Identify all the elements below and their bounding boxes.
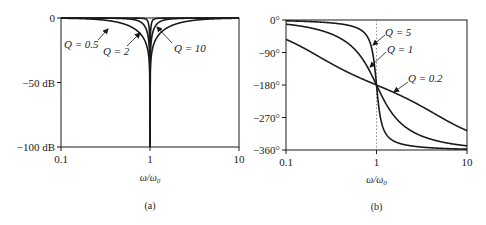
- ytick-label-b-180: −180°: [253, 79, 280, 91]
- chart-b-phase: 0° −90° −180° −270° −360° 0.1 1 10 ω/ω0 …: [253, 14, 473, 213]
- annotation-arrow-q-0.2: [394, 82, 408, 92]
- ytick-label-b-0: 0°: [270, 14, 280, 26]
- ytick-label-a-100: −100 dB: [17, 141, 55, 153]
- annotation-q-5: Q = 5: [385, 26, 412, 38]
- annotation-q-10: Q = 10: [174, 42, 206, 54]
- ytick-label-a-0: 0: [50, 12, 56, 24]
- xlabel-b: ω/ω0: [366, 174, 387, 187]
- annotation-q-2: Q = 2: [103, 45, 130, 57]
- xtick-label-b-01: 0.1: [279, 156, 293, 168]
- xtick-label-a-10: 10: [234, 153, 246, 165]
- annotation-arrow-q-2: [127, 33, 140, 46]
- xtick-label-a-01: 0.1: [54, 153, 68, 165]
- xtick-label-b-10: 10: [462, 156, 474, 168]
- ytick-label-a-50: −50 dB: [22, 77, 55, 89]
- ytick-label-b-360: −360°: [253, 144, 280, 156]
- xtick-label-a-1: 1: [147, 153, 153, 165]
- caption-b: (b): [371, 201, 383, 213]
- ytick-label-b-270: −270°: [253, 112, 280, 124]
- annotation-arrow-q-5: [373, 35, 385, 45]
- annotation-q-0.2: Q = 0.2: [408, 72, 443, 84]
- annotation-q-1: Q = 1: [387, 43, 413, 55]
- ytick-label-b-90: −90°: [258, 47, 280, 59]
- xlabel-a: ω/ω0: [140, 172, 161, 185]
- chart-a-magnitude: 0 −50 dB −100 dB 0.1 1 10 ω/ω0 (a) Q = 0…: [17, 12, 245, 212]
- figure: 0 −50 dB −100 dB 0.1 1 10 ω/ω0 (a) Q = 0…: [0, 0, 486, 225]
- annotation-q-0.5: Q = 0.5: [64, 38, 99, 50]
- annotation-arrow-q-0.5: [98, 29, 108, 40]
- caption-a: (a): [144, 200, 155, 212]
- xtick-label-b-1: 1: [374, 156, 380, 168]
- series-line: [286, 39, 467, 130]
